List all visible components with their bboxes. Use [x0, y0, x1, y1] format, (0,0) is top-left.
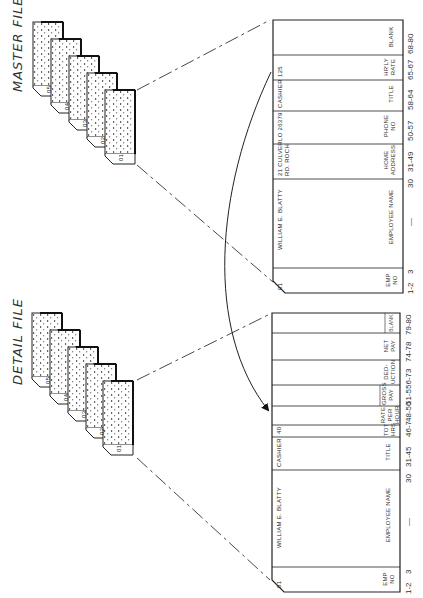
master-value-address-line2: RD. ROCH [284, 144, 290, 176]
master-value-employee-name: WILLIAM E. BLATTY [277, 189, 283, 250]
master-label-phone-no: PHONENO [383, 111, 397, 141]
master-col-58-64: 58-64 [406, 90, 415, 110]
diagram-graphics [0, 0, 423, 598]
master-col-68-80: 68-80 [406, 34, 415, 54]
transfer-arrow [225, 72, 271, 410]
master-col-30: 30 [406, 179, 415, 188]
master-file-title: MASTER FILE [10, 0, 25, 92]
detail-label-net-pay: NETPAY [383, 334, 397, 358]
detail-label-emp-no: EMPNO [382, 568, 396, 590]
master-record-no: 01 [277, 283, 283, 290]
master-label-employee-name: EMPLOYEE NAME [388, 182, 395, 252]
detail-record-no: 01 [276, 581, 282, 588]
master-col-3: 3 [406, 270, 415, 274]
detail-label-rate-per-hour: RATEPERHOUR [380, 406, 401, 424]
master-col-31-49: 31-49 [406, 152, 415, 172]
detail-stack-card-04: 04 [63, 394, 69, 401]
detail-col-79-80: 79-80 [404, 315, 413, 335]
detail-label-deduction: DED-UCTION [383, 360, 397, 384]
master-value-title: CASHIER [277, 79, 283, 108]
detail-col-31-45: 31-45 [404, 447, 413, 467]
detail-label-blank: BLANK [388, 314, 395, 332]
detail-stack-card-05: 05 [45, 377, 51, 384]
detail-col-dash: — [404, 518, 413, 526]
master-col-dash: — [406, 218, 415, 226]
master-stack-card-04: 04 [64, 103, 70, 110]
master-stack-card-02: 02 [100, 137, 106, 144]
master-col-1-2: 1-2 [406, 282, 415, 294]
projection-lines [137, 20, 273, 580]
master-card-stack [33, 22, 135, 164]
master-stack-card-03: 03 [82, 120, 88, 127]
detail-col-30: 30 [404, 474, 413, 483]
detail-value-tot-hrs: 40 [276, 427, 282, 434]
master-label-hourly-rate: HR'LYRATE [383, 56, 397, 78]
detail-file-title: DETAIL FILE [10, 298, 25, 385]
detail-col-3: 3 [404, 570, 413, 574]
detail-label-tot-hrs: TOTHRS [383, 425, 397, 436]
master-col-65-67: 65-67 [406, 60, 415, 80]
detail-label-gross-pay: GROSSPAY [381, 385, 395, 405]
master-value-hourly-rate: 125 [277, 66, 283, 77]
detail-label-title: TITLE [385, 438, 392, 466]
detail-col-56-73: 56-73 [404, 369, 413, 389]
master-label-title: TITLE [388, 80, 395, 108]
master-label-blank: BLANK [388, 22, 395, 52]
detail-card-stack [32, 313, 133, 455]
detail-label-employee-name: EMPLOYEE NAME [385, 475, 392, 555]
master-col-50-57: 50-57 [406, 121, 415, 141]
detail-stack-card-03: 03 [81, 411, 87, 418]
master-label-emp-no: EMPNO [385, 269, 399, 291]
detail-col-51-5: 51-5 [404, 389, 413, 405]
master-stack-card-01: 01 [118, 154, 124, 161]
master-stack-card-05: 05 [46, 86, 52, 93]
detail-col-1-2: 1-2 [404, 582, 413, 594]
master-value-phone: LO 26379 [277, 112, 283, 141]
detail-stack-card-02: 02 [99, 428, 105, 435]
master-label-home-address: HOMEADDRESS [383, 144, 397, 176]
detail-stack-card-01: 01 [116, 445, 122, 452]
detail-value-employee-name: WILLIAM E. BLATTY [276, 487, 282, 548]
detail-card-outline [272, 313, 400, 592]
detail-col-74-78: 74-78 [404, 342, 413, 362]
master-value-address-line1: 21 CULVER [277, 141, 283, 176]
detail-col-46-7: 46-7 [404, 421, 413, 437]
detail-value-title: CASHIER [276, 438, 282, 467]
